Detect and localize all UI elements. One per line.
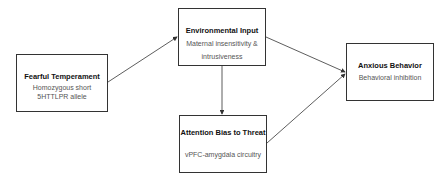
node-attention-bias: Attention Bias to Threat vPFC-amygdala c…	[179, 115, 267, 173]
node-subtitle: Homozygous short 5HTTLPR allele	[17, 83, 107, 101]
node-title: Attention Bias to Threat	[180, 128, 266, 137]
node-title: Fearful Temperament	[17, 72, 107, 81]
node-environmental-input: Environmental Input Maternal insensitivi…	[178, 8, 266, 66]
node-fearful-temperament: Fearful Temperament Homozygous short 5HT…	[16, 54, 108, 112]
edge-attention-to-anxious	[267, 74, 345, 143]
node-subtitle: Behavioral inhibition	[347, 72, 433, 83]
node-subtitle: vPFC-amygdala circuitry	[180, 149, 266, 160]
node-title: Environmental Input	[179, 26, 265, 35]
node-title: Anxious Behavior	[347, 61, 433, 70]
edge-fearful-to-environmental	[108, 37, 177, 82]
node-anxious-behavior: Anxious Behavior Behavioral inhibition	[346, 43, 434, 101]
node-subtitle: Maternal insensitivity & intrusiveness	[179, 37, 265, 63]
edge-environmental-to-anxious	[266, 37, 345, 72]
